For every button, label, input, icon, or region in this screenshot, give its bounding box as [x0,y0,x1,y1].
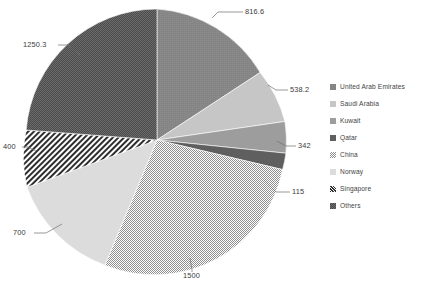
swatch-others-icon [330,203,336,209]
legend-label-others: Others [340,202,361,210]
legend-label-china: China [340,151,358,159]
legend-item-norway[interactable]: Norway [330,163,424,180]
swatch-singapore-icon [330,186,336,192]
pie-slice-others[interactable] [26,9,157,140]
swatch-kuwait-icon [330,118,336,124]
callout-singapore: 400 [3,142,16,151]
callout-qatar: 115 [292,187,304,196]
callout-others: 1250.3 [23,40,47,49]
legend-item-kuwait[interactable]: Kuwait [330,112,424,129]
callout-uae: 816.6 [245,7,264,16]
legend-label-kuwait: Kuwait [340,117,361,125]
swatch-uae-icon [330,84,336,90]
swatch-norway-icon [330,169,336,175]
pie-chart-figure: 816.6 538.2 342 115 1500 700 400 1250.3 … [0,0,424,285]
legend-item-united-arab-emirates[interactable]: United Arab Emirates [330,78,424,95]
callout-saudi-arabia: 538.2 [290,85,309,94]
callout-china: 1500 [183,271,200,280]
legend-item-singapore[interactable]: Singapore [330,180,424,197]
legend-item-saudi-arabia[interactable]: Saudi Arabia [330,95,424,112]
callout-norway: 700 [13,228,26,237]
leader-line-uae [212,12,243,18]
legend-label-saudi-arabia: Saudi Arabia [340,100,379,108]
callout-kuwait: 342 [298,141,311,150]
legend-item-qatar[interactable]: Qatar [330,129,424,146]
legend-label-singapore: Singapore [340,185,371,193]
legend-label-united-arab-emirates: United Arab Emirates [340,83,405,91]
swatch-qatar-icon [330,135,336,141]
swatch-china-icon [330,152,336,158]
swatch-saudi-arabia-icon [330,101,336,107]
legend-item-others[interactable]: Others [330,197,424,214]
legend-label-norway: Norway [340,168,363,176]
chart-legend: United Arab Emirates Saudi Arabia Kuwait… [330,78,424,214]
legend-label-qatar: Qatar [340,134,357,142]
legend-item-china[interactable]: China [330,146,424,163]
